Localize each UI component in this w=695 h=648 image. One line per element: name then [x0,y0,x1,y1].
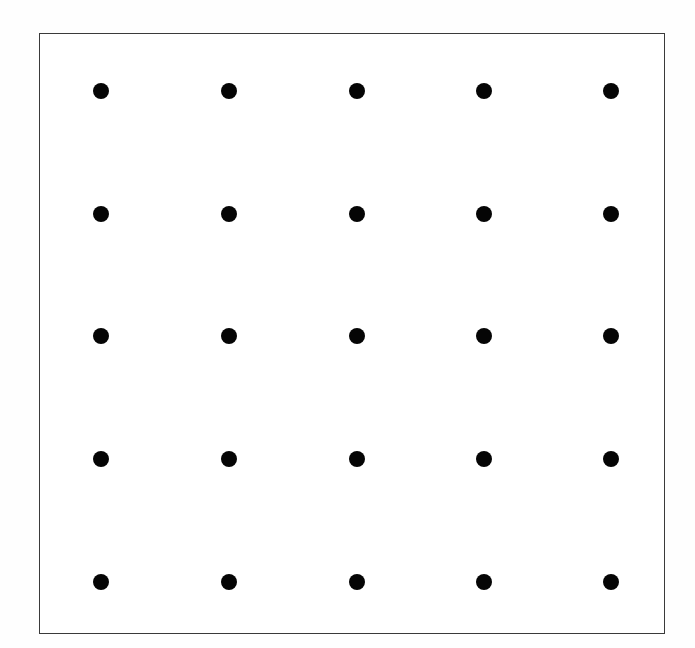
grid-dot [349,83,365,99]
dot-grid-layer [40,34,664,633]
grid-dot [221,451,237,467]
plot-frame-border [39,33,665,634]
grid-dot [93,328,109,344]
grid-dot [221,574,237,590]
grid-dot [349,328,365,344]
grid-dot [476,574,492,590]
grid-dot [476,206,492,222]
grid-dot [93,574,109,590]
grid-dot [349,206,365,222]
grid-dot [349,574,365,590]
grid-dot [476,328,492,344]
grid-dot [93,83,109,99]
grid-dot [221,83,237,99]
figure-canvas [0,0,695,648]
grid-dot [603,451,619,467]
grid-dot [603,328,619,344]
grid-dot [93,206,109,222]
grid-dot [476,451,492,467]
grid-dot [221,328,237,344]
grid-dot [349,451,365,467]
grid-dot [603,83,619,99]
grid-dot [221,206,237,222]
grid-dot [476,83,492,99]
grid-dot [93,451,109,467]
grid-dot [603,574,619,590]
grid-dot [603,206,619,222]
